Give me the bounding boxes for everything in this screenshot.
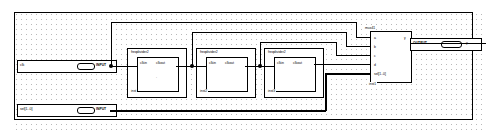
wire-div1-down-to-mux-b — [346, 32, 347, 46]
input-port-sel-label: sel[1..0] — [20, 107, 33, 111]
module-2-pin-clkin: clkin — [209, 61, 216, 65]
module-1-center-mark: · — [156, 76, 157, 80]
wire-clk-into-mux-a — [356, 37, 371, 38]
mux-pin-y: y — [404, 36, 406, 40]
module-2-title: freqdivider2 — [199, 50, 219, 54]
input-port-sel-kind: INPUT — [96, 107, 106, 111]
schematic-canvas: clk INPUT sel[1..0] INPUT freqdivider2 c… — [0, 0, 486, 130]
wire-mux-y-to-output — [410, 43, 486, 44]
module-freqdivider2-3[interactable]: freqdivider2 clkin clkout inst3 — [264, 48, 324, 98]
wire-div2-tap-up — [260, 42, 261, 66]
wire-clk-top-run — [111, 22, 356, 23]
mux-block-body: a b c d sel[1..0] y — [370, 31, 412, 83]
module-2-instance-label: inst2 — [199, 89, 208, 93]
input-port-sel[interactable]: sel[1..0] INPUT — [17, 104, 117, 116]
wire-sel-bus-into-mux — [325, 73, 371, 75]
module-3-pin-clkin: clkin — [277, 61, 284, 65]
input-port-sel-pill — [77, 107, 95, 114]
wire-div3-to-mux-d — [314, 64, 371, 65]
input-port-clk-label: clk — [20, 63, 24, 67]
mux-block-wrapper[interactable]: mux41 a b c d sel[1..0] y inst1 — [364, 26, 424, 88]
module-1-pin-clkin: clkin — [140, 61, 147, 65]
module-3-pin-clkout: clkout — [293, 61, 302, 65]
wire-clk-to-div1 — [110, 66, 137, 67]
output-port-y[interactable]: OUTPUT y — [410, 38, 482, 50]
wire-sel-bus-up — [325, 73, 327, 111]
wire-div2-top-run — [260, 42, 336, 43]
module-1-pin-clkout: clkout — [156, 61, 165, 65]
wire-div1-top-run — [192, 32, 346, 33]
mux-pin-c: c — [374, 54, 376, 58]
input-port-clk[interactable]: clk INPUT — [17, 60, 117, 72]
mux-pin-d: d — [374, 63, 376, 67]
wire-div2-into-mux-c — [336, 55, 371, 56]
module-3-instance-label: inst3 — [267, 89, 276, 93]
wire-div1-tap-up — [192, 32, 193, 66]
wire-div2-down-to-mux-c — [336, 42, 337, 55]
mux-pin-sel: sel[1..0] — [374, 72, 386, 76]
module-1-instance-label: inst — [130, 89, 137, 93]
mux-pin-b: b — [374, 45, 376, 49]
input-port-clk-kind: INPUT — [96, 63, 106, 67]
input-port-clk-pill — [77, 63, 95, 70]
module-freqdivider2-2[interactable]: freqdivider2 clkin clkout inst2 — [196, 48, 256, 98]
mux-pin-a: a — [374, 36, 376, 40]
wire-div1-into-mux-b — [346, 46, 371, 47]
mux-instance-label: inst1 — [368, 82, 377, 86]
module-freqdivider2-1[interactable]: freqdivider2 clkin clkout · inst — [127, 48, 187, 98]
wire-clk-down-to-mux-a — [356, 22, 357, 37]
wire-sel-bus-run — [110, 110, 326, 112]
module-1-title: freqdivider2 — [130, 50, 150, 54]
mux-title: mux41 — [364, 26, 376, 30]
module-3-title: freqdivider2 — [267, 50, 287, 54]
wire-clk-tap-up — [111, 22, 112, 66]
module-2-pin-clkout: clkout — [225, 61, 234, 65]
